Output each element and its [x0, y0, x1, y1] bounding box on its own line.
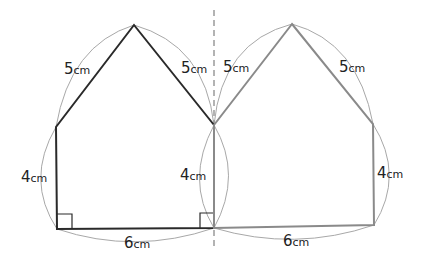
arc-right-left-side: [214, 125, 229, 228]
label-right-side: 4cm: [377, 164, 403, 182]
diagram-canvas: 5cm 5cm 4cm 4cm 6cm 5cm 5cm 4cm 6cm: [0, 0, 422, 263]
label-left-bottom: 6cm: [124, 234, 150, 252]
label-left-slope-right: 5cm: [181, 59, 207, 77]
label-right-bottom: 6cm: [283, 232, 309, 250]
left-construction-arcs: [41, 25, 214, 242]
right-construction-arcs: [214, 24, 389, 239]
label-left-side: 4cm: [21, 168, 47, 186]
label-right-slope-right: 5cm: [339, 58, 365, 76]
label-left-slope-left: 5cm: [64, 60, 90, 78]
label-center-side: 4cm: [180, 166, 206, 184]
left-pentagon: [56, 25, 214, 229]
right-angle-mark-left: [57, 214, 72, 229]
diagram-svg: 5cm 5cm 4cm 4cm 6cm 5cm 5cm 4cm 6cm: [0, 0, 422, 263]
right-pentagon: [214, 24, 374, 228]
